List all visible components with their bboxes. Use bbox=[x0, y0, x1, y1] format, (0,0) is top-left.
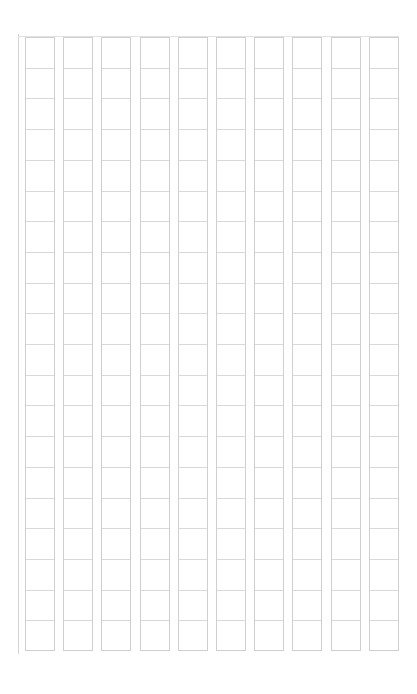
grid-cell bbox=[370, 37, 398, 68]
grid-cell bbox=[26, 620, 54, 651]
grid-cell bbox=[332, 313, 360, 344]
grid-cell bbox=[102, 221, 130, 252]
grid-cell bbox=[141, 221, 169, 252]
grid-cell bbox=[370, 344, 398, 375]
grid-cell bbox=[141, 68, 169, 99]
grid-cell bbox=[64, 590, 92, 621]
grid-cell bbox=[293, 436, 321, 467]
grid-cell bbox=[26, 436, 54, 467]
grid-cell bbox=[217, 467, 245, 498]
grid-cell bbox=[102, 98, 130, 129]
grid-cell bbox=[255, 129, 283, 160]
grid-bottom-line bbox=[255, 650, 283, 651]
grid-cell bbox=[332, 620, 360, 651]
grid-column bbox=[140, 37, 170, 651]
grid-cell bbox=[255, 528, 283, 559]
grid-cell bbox=[332, 160, 360, 191]
grid-cell bbox=[102, 191, 130, 222]
grid-cell bbox=[217, 160, 245, 191]
grid-cell bbox=[255, 191, 283, 222]
grid-cell bbox=[255, 283, 283, 314]
grid-cell bbox=[26, 191, 54, 222]
grid-cell bbox=[332, 252, 360, 283]
grid-cell bbox=[332, 467, 360, 498]
grid-cell bbox=[26, 498, 54, 529]
grid-cell bbox=[102, 467, 130, 498]
grid-cell bbox=[141, 405, 169, 436]
grid-cell bbox=[293, 559, 321, 590]
grid-cell bbox=[64, 436, 92, 467]
grid-cell bbox=[141, 375, 169, 406]
grid-cell bbox=[255, 467, 283, 498]
grid-cell bbox=[370, 283, 398, 314]
grid-cell bbox=[293, 375, 321, 406]
grid-cell bbox=[179, 313, 207, 344]
grid-column bbox=[292, 37, 322, 651]
grid-cell bbox=[102, 436, 130, 467]
grid-cell bbox=[64, 528, 92, 559]
grid-column bbox=[216, 37, 246, 651]
grid-cell bbox=[255, 620, 283, 651]
grid-bottom-line bbox=[293, 650, 321, 651]
grid-cell bbox=[370, 467, 398, 498]
grid-cell bbox=[64, 68, 92, 99]
grid-cell bbox=[179, 191, 207, 222]
grid-cell bbox=[26, 559, 54, 590]
grid-cell bbox=[255, 405, 283, 436]
grid-cell bbox=[64, 252, 92, 283]
grid-cell bbox=[141, 160, 169, 191]
grid-cell bbox=[179, 37, 207, 68]
grid-cell bbox=[102, 129, 130, 160]
grid-cell bbox=[141, 283, 169, 314]
grid-cell bbox=[293, 620, 321, 651]
grid-cell bbox=[217, 191, 245, 222]
grid-cell bbox=[370, 313, 398, 344]
grid-cell bbox=[26, 221, 54, 252]
grid-cell bbox=[26, 252, 54, 283]
grid-cell bbox=[370, 498, 398, 529]
grid-bottom-line bbox=[179, 650, 207, 651]
grid-cell bbox=[217, 68, 245, 99]
grid-cell bbox=[141, 436, 169, 467]
grid-cell bbox=[293, 98, 321, 129]
grid-cell bbox=[141, 37, 169, 68]
grid-cell bbox=[370, 375, 398, 406]
grid-cell bbox=[26, 344, 54, 375]
grid-cell bbox=[293, 344, 321, 375]
grid-cell bbox=[102, 590, 130, 621]
grid-bottom-line bbox=[217, 650, 245, 651]
grid-cell bbox=[102, 160, 130, 191]
grid-bottom-line bbox=[141, 650, 169, 651]
grid-cell bbox=[102, 283, 130, 314]
grid-cell bbox=[217, 252, 245, 283]
grid-cell bbox=[217, 221, 245, 252]
grid-cell bbox=[217, 559, 245, 590]
grid-column bbox=[254, 37, 284, 651]
grid-cell bbox=[255, 559, 283, 590]
grid-cell bbox=[141, 252, 169, 283]
grid-cell bbox=[141, 191, 169, 222]
grid-cell bbox=[102, 620, 130, 651]
grid-cell bbox=[26, 98, 54, 129]
grid-cell bbox=[26, 375, 54, 406]
grid-cell bbox=[217, 620, 245, 651]
grid-cell bbox=[141, 590, 169, 621]
grid-cell bbox=[293, 498, 321, 529]
grid-cell bbox=[293, 283, 321, 314]
grid-cell bbox=[332, 37, 360, 68]
grid-cell bbox=[141, 313, 169, 344]
grid-cell bbox=[64, 313, 92, 344]
grid-cell bbox=[26, 590, 54, 621]
grid-cell bbox=[102, 252, 130, 283]
grid-cell bbox=[255, 498, 283, 529]
grid-cell bbox=[332, 68, 360, 99]
grid-cell bbox=[332, 344, 360, 375]
grid-column bbox=[63, 37, 93, 651]
grid-cell bbox=[293, 68, 321, 99]
grid-cell bbox=[26, 129, 54, 160]
grid-cell bbox=[64, 221, 92, 252]
left-margin-line bbox=[18, 34, 19, 654]
grid-cell bbox=[179, 344, 207, 375]
grid-cell bbox=[179, 129, 207, 160]
grid-cell bbox=[141, 129, 169, 160]
